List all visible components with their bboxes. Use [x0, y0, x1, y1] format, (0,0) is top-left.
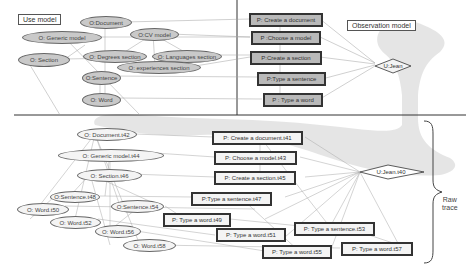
- trace-object-sentence-t54[interactable]: O:Sentence.t54: [111, 200, 164, 213]
- trace-object-word-t50[interactable]: O: Word.t50: [17, 203, 69, 216]
- trace-process-type-word-t55[interactable]: P: Type a word.t55: [262, 245, 332, 259]
- trace-process-type-word-t49[interactable]: P: Type a word.t49: [163, 213, 231, 227]
- object-word[interactable]: O: Word: [82, 93, 121, 107]
- object-generic-model[interactable]: O: Generic model: [22, 31, 102, 44]
- trace-object-sentence-t48[interactable]: O:Sentence.t48: [50, 191, 100, 203]
- trace-object-generic-model-t44[interactable]: O: Generic model.t44: [58, 149, 164, 162]
- object-section[interactable]: O: Section: [18, 53, 70, 67]
- raw-trace-label-line2: trace: [442, 204, 458, 212]
- trace-process-type-word-t51[interactable]: P: Type a word.t51: [216, 228, 286, 242]
- trace-object-word-t58[interactable]: O: Word.t58: [123, 239, 176, 252]
- trace-object-word-t56[interactable]: O: Word.t56: [95, 225, 141, 238]
- raw-trace-label-line1: Raw: [442, 196, 458, 204]
- trace-process-type-word-t57[interactable]: P: Type a word.t57: [341, 242, 413, 256]
- object-sentence[interactable]: O:Sentence: [82, 71, 121, 85]
- user-jean-t40[interactable]: U:Jean.t40: [368, 167, 414, 177]
- trace-process-create-section-t45[interactable]: P: Create a section.t45: [214, 171, 296, 185]
- use-model-label: Use model: [18, 14, 61, 25]
- object-document[interactable]: O:Document: [80, 16, 132, 29]
- process-type-word[interactable]: P : Type a word: [263, 93, 323, 107]
- object-experiences-section[interactable]: O: experiences section: [117, 61, 201, 74]
- user-jean[interactable]: U:Jean: [378, 61, 408, 71]
- trace-process-type-sentence-t47[interactable]: P:Type a sentence.t47: [191, 192, 272, 206]
- observation-model-label: Observation model: [347, 20, 416, 31]
- process-create-section[interactable]: P:Create a section: [250, 51, 322, 65]
- trace-object-section-t46[interactable]: O: Section.t46: [77, 169, 142, 182]
- trace-object-word-t52[interactable]: O: Word.t52: [50, 216, 101, 229]
- process-choose-model[interactable]: P :Choose a model: [251, 31, 321, 45]
- process-create-document[interactable]: P: Create a document: [249, 13, 323, 27]
- trace-process-type-sentence-t53[interactable]: P: Type a sentence.t53: [294, 222, 375, 236]
- trace-process-choose-model-t43[interactable]: P: Choose a model.t43: [214, 151, 297, 165]
- process-type-sentence[interactable]: P:Type a sentence: [257, 72, 326, 86]
- trace-object-document-t42[interactable]: O: Document.t42: [77, 128, 137, 141]
- trace-process-create-document-t41[interactable]: P: Create a document.t41: [212, 131, 303, 145]
- object-cv-model[interactable]: O:CV model: [130, 28, 179, 41]
- raw-trace-brace: [424, 121, 442, 263]
- raw-trace-label: Raw trace: [442, 196, 458, 212]
